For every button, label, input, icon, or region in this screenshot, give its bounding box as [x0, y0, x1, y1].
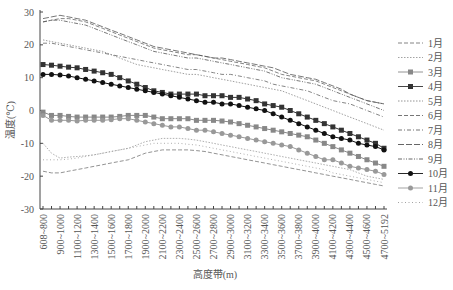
data-point-circle	[211, 129, 216, 134]
data-point-circle	[134, 118, 139, 123]
data-point-circle	[58, 73, 63, 78]
data-point-square	[382, 164, 387, 169]
data-point-square	[83, 67, 88, 72]
data-point-circle	[83, 77, 88, 82]
x-tick-label: 608~800	[38, 214, 49, 249]
data-point-square	[313, 118, 318, 123]
data-point-square	[356, 154, 361, 159]
data-point-circle	[254, 138, 259, 143]
data-point-square	[177, 116, 182, 121]
data-point-circle	[220, 131, 225, 136]
data-point-square	[160, 116, 165, 121]
data-point-circle	[75, 119, 80, 124]
data-point-circle	[330, 157, 335, 162]
y-tick-label: 20	[24, 39, 34, 50]
x-tick-label: 4500~4600	[361, 214, 372, 259]
data-point-circle	[262, 108, 267, 113]
data-point-circle	[305, 151, 310, 156]
data-point-circle	[92, 118, 97, 123]
legend-item: 1月	[398, 38, 443, 49]
data-point-square	[134, 113, 139, 118]
data-point-square	[49, 113, 54, 118]
y-tick-label: 0	[29, 105, 34, 116]
data-point-circle	[109, 82, 114, 87]
data-point-circle	[245, 136, 250, 141]
data-point-circle	[296, 121, 301, 126]
data-point-square	[305, 134, 310, 139]
data-point-circle	[288, 118, 293, 123]
data-point-circle	[364, 167, 369, 172]
data-point-circle	[220, 101, 225, 106]
data-point-square	[356, 134, 361, 139]
legend-marker-square	[408, 84, 413, 89]
series-line	[43, 150, 384, 186]
data-point-circle	[305, 124, 310, 129]
legend-item: 6月	[398, 110, 443, 121]
data-point-circle	[160, 123, 165, 128]
x-tick-label: 3900~4000	[310, 214, 321, 259]
data-point-circle	[151, 90, 156, 95]
series-10-month	[41, 72, 387, 153]
data-point-circle	[41, 113, 46, 118]
data-point-circle	[373, 169, 378, 174]
legend-label: 5月	[428, 96, 443, 107]
legend-marker-circle	[408, 171, 413, 176]
data-point-circle	[92, 78, 97, 83]
x-tick-label: 1500~1600	[106, 214, 117, 259]
data-point-square	[254, 98, 259, 103]
data-point-square	[92, 69, 97, 74]
data-point-circle	[117, 116, 122, 121]
data-point-square	[330, 124, 335, 129]
data-point-circle	[75, 75, 80, 80]
data-point-circle	[202, 100, 207, 105]
x-tick-label: 1700~1800	[123, 214, 134, 259]
data-point-circle	[202, 128, 207, 133]
x-tick-label: 2300~2400	[174, 214, 185, 259]
data-point-circle	[211, 100, 216, 105]
series-layer	[41, 15, 387, 186]
data-point-square	[220, 93, 225, 98]
x-tick-label: 4700~5192	[379, 214, 390, 259]
data-point-square	[151, 115, 156, 120]
legend-item: 7月	[398, 125, 443, 136]
data-point-square	[228, 119, 233, 124]
data-point-square	[126, 78, 131, 83]
data-point-circle	[83, 118, 88, 123]
data-point-circle	[279, 115, 284, 120]
legend-item: 3月	[398, 67, 443, 78]
data-point-circle	[322, 131, 327, 136]
legend-item: 12月	[398, 197, 448, 208]
data-point-circle	[109, 117, 114, 122]
data-point-square	[262, 101, 267, 106]
data-point-square	[254, 124, 259, 129]
data-point-square	[66, 65, 71, 70]
legend: 1月2月3月4月5月6月7月8月9月10月11月12月	[398, 38, 448, 209]
data-point-square	[279, 105, 284, 110]
data-point-square	[296, 133, 301, 138]
legend-item: 8月	[398, 139, 443, 150]
series-line	[43, 143, 384, 182]
x-tick-label: 2700~2800	[208, 214, 219, 259]
y-tick-label: -30	[21, 204, 34, 215]
data-point-circle	[339, 136, 344, 141]
x-tick-label: 2500~2600	[191, 214, 202, 259]
data-point-circle	[254, 106, 259, 111]
data-point-circle	[373, 144, 378, 149]
data-point-circle	[66, 118, 71, 123]
data-point-square	[202, 118, 207, 123]
data-point-circle	[134, 87, 139, 92]
data-point-square	[288, 108, 293, 113]
data-point-circle	[237, 103, 242, 108]
data-point-square	[134, 82, 139, 87]
legend-label: 9月	[428, 154, 443, 165]
data-point-circle	[228, 101, 233, 106]
legend-label: 12月	[428, 197, 448, 208]
series-12-month	[43, 143, 384, 182]
data-point-square	[75, 65, 80, 70]
data-point-square	[109, 72, 114, 77]
data-point-square	[58, 64, 63, 69]
data-point-circle	[168, 124, 173, 129]
data-point-square	[271, 128, 276, 133]
data-point-square	[194, 118, 199, 123]
data-point-circle	[288, 144, 293, 149]
